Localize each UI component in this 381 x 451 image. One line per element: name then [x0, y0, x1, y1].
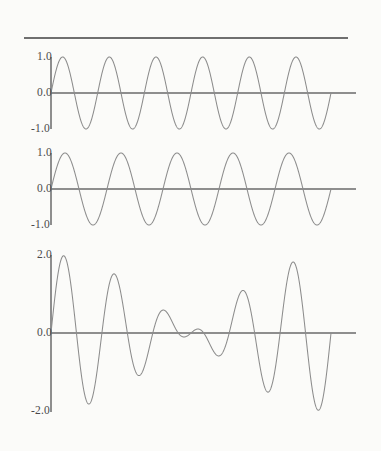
- plot-area-panel-3-sum: [0, 0, 381, 451]
- y-axis-tick-label: 0.0: [18, 87, 52, 98]
- y-axis-tick-label: 0.0: [18, 183, 52, 194]
- plot-area-panel-1-sine-6: [0, 0, 381, 451]
- y-axis-tick-label: -2.0: [16, 405, 50, 416]
- chart-panel-sine-5: 1.00.0-1.0: [0, 0, 381, 451]
- y-axis-tick-label: -1.0: [16, 219, 50, 230]
- y-axis-tick-label: -1.0: [16, 123, 50, 134]
- y-axis-tick-label: 0.0: [18, 327, 52, 338]
- y-axis-tick-label: 1.0: [18, 51, 52, 62]
- top-horizontal-rule: [24, 37, 348, 39]
- y-axis-tick-label: 1.0: [18, 147, 52, 158]
- plot-area-panel-2-sine-5: [0, 0, 381, 451]
- y-axis-tick-label: 2.0: [18, 249, 52, 260]
- chart-panel-sine-6: 1.00.0-1.0: [0, 0, 381, 451]
- chart-panel-sum: 2.00.0-2.0: [0, 0, 381, 451]
- waveform-figure: 1.00.0-1.0 1.00.0-1.0 2.00.0-2.0: [0, 0, 381, 451]
- waveform-curve: [51, 153, 331, 225]
- waveform-curve: [51, 256, 331, 410]
- waveform-curve: [51, 57, 331, 129]
